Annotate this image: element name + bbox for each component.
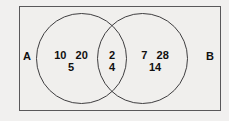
region-a-only-row-top: 10 20: [42, 49, 100, 61]
set-label-a: A: [23, 51, 31, 62]
set-label-b: B: [206, 51, 214, 62]
region-a-only-row-bottom: 5: [42, 61, 100, 73]
region-intersection: 2 4: [103, 49, 121, 73]
region-intersection-row-bottom: 4: [103, 61, 121, 73]
region-b-only-row-top: 7 28: [128, 49, 182, 61]
region-a-only: 10 20 5: [42, 49, 100, 73]
region-b-only: 7 28 14: [128, 49, 182, 73]
region-b-only-row-bottom: 14: [128, 61, 182, 73]
venn-diagram: A B 10 20 5 2 4 7 28 14: [0, 0, 229, 121]
region-intersection-row-top: 2: [103, 49, 121, 61]
